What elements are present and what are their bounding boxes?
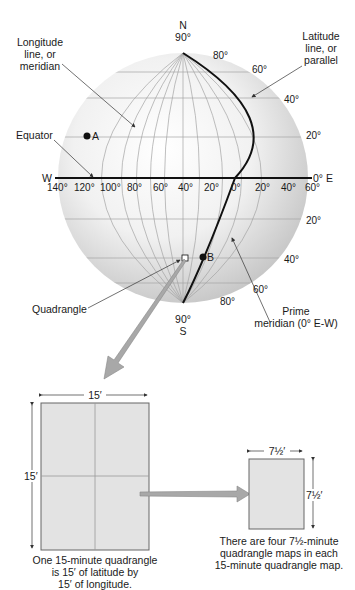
equator-callout: Equator <box>16 129 53 141</box>
small-quad-width-label: 7½′ <box>264 445 290 457</box>
big-quad-width-label: 15′ <box>84 389 106 401</box>
lon-tick: 80° <box>127 182 142 194</box>
south-degree: 90° <box>172 313 194 325</box>
lon-tick: 40° <box>178 182 193 194</box>
lon-tick: 120° <box>74 182 95 194</box>
lat-tick-north: 80° <box>213 50 228 62</box>
north-letter: N <box>176 19 190 31</box>
lat-tick-south: 80° <box>220 296 235 308</box>
lon-tick: 20° <box>204 182 219 194</box>
lon-tick: 0° <box>231 182 241 194</box>
right-arrow <box>140 486 250 502</box>
lat-tick-south: 40° <box>284 254 299 266</box>
small-quad-height-label: 7½′ <box>306 489 323 501</box>
point-a-label: A <box>92 130 99 142</box>
lon-tick: 40° <box>281 182 296 194</box>
point-b-marker <box>200 254 207 261</box>
point-b-label: B <box>207 251 214 263</box>
lat-tick-south: 60° <box>253 284 268 296</box>
south-letter: S <box>176 325 190 337</box>
latitude-callout: Latitude line, or parallel <box>291 30 351 66</box>
lon-tick: 140° <box>47 182 68 194</box>
big-quad-caption: One 15-minute quadrangle is 15′ of latit… <box>20 554 170 590</box>
small-quadrangle <box>249 459 304 529</box>
lat-tick-north: 60° <box>252 64 267 76</box>
lat-tick-south: 20° <box>306 215 321 227</box>
lat-tick-north: 40° <box>284 94 299 106</box>
lon-tick: 100° <box>100 182 121 194</box>
big-quad-height-label: 15′ <box>24 470 38 482</box>
small-quad-caption: There are four 7½-minute quadrangle maps… <box>209 535 349 571</box>
quadrangle-callout: Quadrangle <box>32 303 87 315</box>
lon-tick: 60° <box>305 182 320 194</box>
lat-tick-north: 20° <box>306 130 321 142</box>
lon-tick: 60° <box>153 182 168 194</box>
longitude-callout: Longitude line, or meridian <box>10 36 70 72</box>
lon-tick: 20° <box>255 182 270 194</box>
north-degree: 90° <box>172 31 194 43</box>
prime-meridian-callout: Prime meridian (0° E-W) <box>246 305 346 329</box>
point-a-marker <box>84 133 91 140</box>
